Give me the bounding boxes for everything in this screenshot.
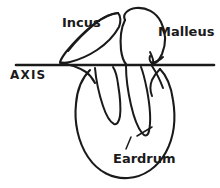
ossicles-diagram: Incus Malleus AXIS Eardrum <box>0 0 220 188</box>
label-incus: Incus <box>62 15 101 30</box>
label-eardrum: Eardrum <box>113 151 176 166</box>
label-axis: AXIS <box>10 68 46 82</box>
diagram-root: Incus Malleus AXIS Eardrum <box>0 0 220 188</box>
label-malleus: Malleus <box>158 24 215 39</box>
